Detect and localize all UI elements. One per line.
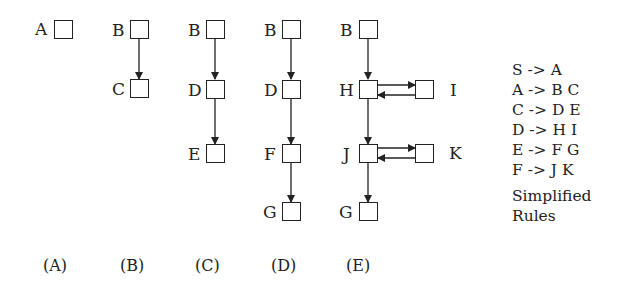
node-box-c — [130, 79, 149, 98]
caption-a: (A) — [43, 256, 67, 275]
node-box-i — [415, 80, 434, 99]
rule-item: F -> J K — [512, 160, 592, 180]
node-label-b: B — [188, 20, 201, 40]
caption-c: (C) — [195, 256, 220, 275]
node-box-b — [130, 20, 149, 39]
node-box-d — [206, 80, 225, 99]
node-box-d — [282, 80, 301, 99]
node-label-f: F — [264, 144, 276, 164]
node-label-e: E — [188, 144, 200, 164]
node-label-b: B — [112, 20, 125, 40]
rule-item: E -> F G — [512, 140, 592, 160]
node-box-j — [359, 144, 378, 163]
rules-list: S -> A A -> B C C -> D E D -> H I E -> F… — [512, 60, 592, 226]
rule-item: S -> A — [512, 60, 592, 80]
caption-d: (D) — [271, 256, 296, 275]
rules-title-2: Rules — [512, 206, 592, 226]
rule-item: D -> H I — [512, 120, 592, 140]
node-label-h: H — [339, 80, 354, 100]
node-label-g: G — [263, 202, 277, 222]
rule-item: A -> B C — [512, 80, 592, 100]
node-box-a — [54, 20, 73, 39]
caption-e: (E) — [346, 256, 370, 275]
node-box-g — [282, 202, 301, 221]
node-label-g: G — [339, 202, 353, 222]
node-label-d: D — [188, 80, 202, 100]
node-box-k — [415, 144, 434, 163]
node-box-g — [359, 202, 378, 221]
rule-item: C -> D E — [512, 100, 592, 120]
node-box-e — [206, 144, 225, 163]
node-label-b: B — [264, 20, 277, 40]
rules-title: Simplified — [512, 186, 592, 206]
node-label-c: C — [112, 79, 125, 99]
node-label-j: J — [343, 144, 350, 164]
node-label-i: I — [450, 80, 457, 100]
node-box-f — [282, 144, 301, 163]
caption-b: (B) — [120, 256, 144, 275]
node-box-b — [206, 20, 225, 39]
node-label-k: K — [449, 143, 462, 163]
node-label-a: A — [35, 19, 47, 39]
node-box-b — [282, 20, 301, 39]
node-box-h — [359, 80, 378, 99]
node-label-d: D — [264, 80, 278, 100]
node-box-b — [359, 20, 378, 39]
node-label-b: B — [340, 20, 353, 40]
